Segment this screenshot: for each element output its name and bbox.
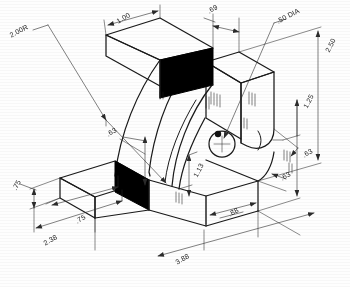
drawing-sheet: .obj { fill:none; stroke:#1a1a1a; stroke…	[0, 0, 350, 287]
isometric-drawing-canvas: .obj { fill:none; stroke:#1a1a1a; stroke…	[0, 0, 350, 287]
lower-left-base-block	[60, 161, 149, 218]
dim-radius-outer	[33, 25, 166, 183]
dim-right-thickness	[274, 129, 298, 156]
dim-overall-length	[95, 211, 314, 256]
upper-left-arm-block	[106, 18, 213, 98]
dim-hole-height	[258, 100, 300, 211]
dim-front-depth	[46, 176, 118, 232]
dim-left-overall	[34, 190, 122, 232]
through-hole	[209, 131, 235, 157]
